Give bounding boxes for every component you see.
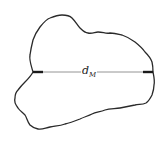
right-arrow-head-icon [143, 71, 153, 73]
dimension-label-subscript: M [89, 71, 96, 79]
left-arrow-head-icon [33, 71, 43, 73]
dimension-label: dM [81, 65, 97, 79]
dimension-label-main: d [82, 64, 89, 77]
